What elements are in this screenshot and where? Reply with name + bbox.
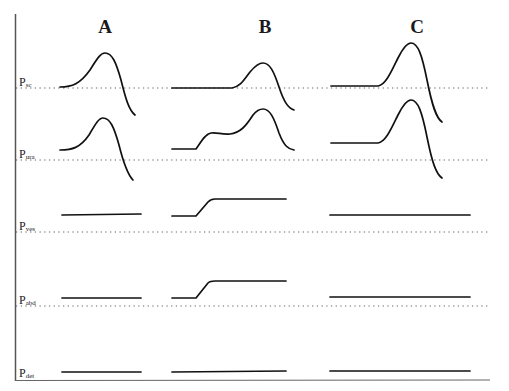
row-label-pdet: Pdet (19, 367, 34, 380)
row-label-sub: ves (26, 225, 35, 233)
column-header-c: C (410, 16, 424, 38)
bottom-axis (16, 380, 491, 381)
row-label-sub: abd (26, 299, 36, 307)
trace-B-pabd (172, 281, 286, 298)
column-header-a: A (98, 16, 112, 38)
row-label-sub: sc (26, 81, 32, 89)
row-label-sub: det (26, 372, 35, 380)
row-label-pabd: Pabd (19, 294, 36, 307)
row-label-pura: Pura (19, 148, 35, 161)
row-label-main: P (19, 293, 26, 307)
row-label-sub: ura (26, 153, 35, 161)
traces (60, 43, 470, 372)
row-label-main: P (19, 219, 26, 233)
trace-A-pura (60, 118, 133, 180)
trace-A-psc (60, 53, 135, 115)
column-header-b: B (259, 16, 272, 38)
row-label-main: P (19, 147, 26, 161)
trace-B-pves (172, 199, 286, 216)
row-label-main: P (19, 75, 26, 89)
trace-A-pves (62, 214, 141, 215)
trace-B-psc (172, 63, 294, 110)
trace-B-pdet (172, 371, 286, 372)
row-label-main: P (19, 366, 26, 380)
row-label-psc: Psc (19, 76, 32, 89)
baselines (16, 88, 490, 306)
trace-canvas (0, 0, 509, 391)
trace-B-pura (172, 109, 294, 150)
trace-C-pura (331, 100, 442, 178)
pressure-trace-diagram: A B C Psc Pura Pves Pabd Pdet (0, 0, 509, 391)
trace-C-psc (331, 43, 442, 122)
row-label-pves: Pves (19, 220, 35, 233)
